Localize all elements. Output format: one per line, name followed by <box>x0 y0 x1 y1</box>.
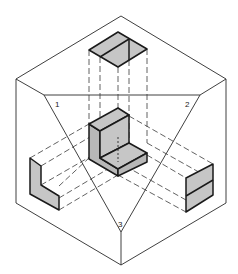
plane-label-2: 2 <box>185 100 190 109</box>
right-view <box>186 164 213 212</box>
left-view <box>30 158 59 210</box>
plane-label-3: 3 <box>118 220 123 229</box>
projection-diagram: 1 2 3 <box>0 0 238 274</box>
diagram-canvas: 1 2 3 <box>0 0 238 274</box>
top-view <box>89 32 147 67</box>
isometric-object <box>89 108 147 176</box>
plane-label-1: 1 <box>55 100 60 109</box>
